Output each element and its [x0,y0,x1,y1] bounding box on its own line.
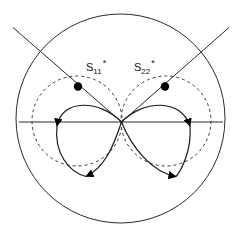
left-loop-outer-tail [57,126,86,177]
left-diagonal [13,28,122,123]
s11-label: S11* [86,58,107,76]
right-diagonal [122,28,230,123]
s22-label: S22* [134,58,155,76]
right-loop-outer-branch [122,105,191,126]
figure-canvas: S11* S22* [0,0,241,241]
s11-label-subscript: 11 [93,67,102,76]
s11-label-superscript: * [103,58,107,68]
s11-conjugate-marker [74,82,82,90]
s22-label-subscript: 22 [141,67,150,76]
right-loop-inner-branch [122,122,177,177]
stability-diagram: S11* S22* [0,0,241,241]
s22-label-superscript: * [151,58,155,68]
right-loop-outer-tail [176,126,190,177]
s11-label-base: S [86,61,93,73]
left-loop-inner-branch [86,122,122,177]
unit-circle [16,14,225,223]
left-loop-outer-branch [57,105,122,126]
s22-conjugate-marker [161,82,169,90]
s22-label-base: S [134,61,141,73]
